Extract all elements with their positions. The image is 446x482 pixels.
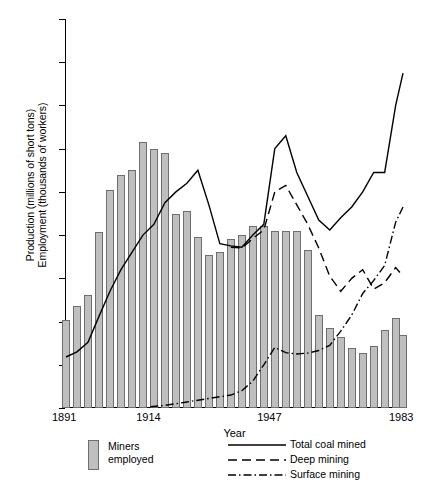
legend-swatch-miners-employed [88,440,99,470]
line-surface-mining [150,207,403,407]
x-tick-label-1947: 1947 [257,412,281,423]
x-tick-label-1983: 1983 [389,412,413,423]
line-series-group [66,19,403,408]
legend-label-miners-line2: employed [108,453,154,466]
y-tick-700 [59,105,65,106]
chart-legend: Miners employed Total coal mined Deep mi… [0,437,446,482]
x-tick-label-1914: 1914 [136,412,160,423]
y-tick-800 [59,62,65,63]
legend-label-total-coal-mined: Total coal mined [290,437,366,452]
y-axis-title: Production (millions of short tons) Empl… [22,70,52,300]
y-tick-0 [59,408,65,409]
plot-area: 0100200300400500600700800900 18911914194… [66,19,403,408]
y-tick-400 [59,235,65,236]
x-tick-label-1891: 1891 [52,412,76,423]
y-axis-title-line2: Employment (thousands of workers) [37,103,49,268]
legend-label-miners-line1: Miners [108,440,154,453]
legend-label-deep-mining: Deep mining [290,452,349,467]
coal-production-chart: Production (millions of short tons) Empl… [0,0,446,482]
y-tick-600 [59,149,65,150]
y-tick-300 [59,278,65,279]
legend-label-miners-employed: Miners employed [108,440,154,467]
legend-label-surface-mining: Surface mining [290,467,360,482]
y-tick-500 [59,192,65,193]
y-tick-900 [59,19,65,20]
